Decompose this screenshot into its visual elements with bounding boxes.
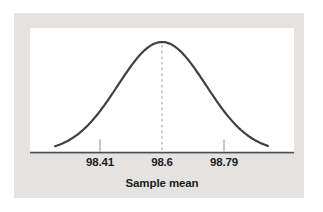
x-tick-label-98-41: 98.41 bbox=[86, 156, 114, 168]
plot-area bbox=[30, 28, 294, 154]
figure-panel: 98.41 98.6 98.79 Sample mean bbox=[14, 13, 304, 198]
x-axis-title: Sample mean bbox=[125, 177, 198, 189]
bell-curve-svg bbox=[30, 28, 294, 154]
x-tick-label-98-79: 98.79 bbox=[210, 156, 238, 168]
x-tick-label-98-6: 98.6 bbox=[151, 156, 173, 168]
